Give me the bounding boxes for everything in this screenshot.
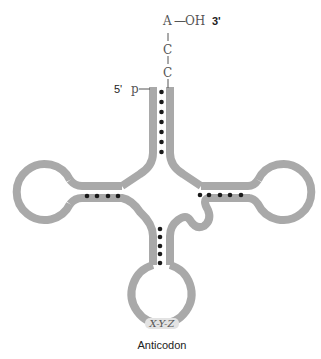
anticodon-label: Anticodon <box>138 339 187 351</box>
anticodon-stem-base-pairs <box>158 227 163 266</box>
acceptor-stem-5prime-strand <box>122 87 153 186</box>
base-a-label: A <box>162 14 172 28</box>
rna-backbone <box>17 87 312 324</box>
three-prime-label: 3' <box>212 15 221 27</box>
five-prime-label: 5' <box>114 83 122 95</box>
acceptor-stem-base-pairs <box>159 90 164 155</box>
trna-diagram: A — OH 3' C C 5' p X-Y-Z Anticodon <box>0 0 321 359</box>
oh-group-label: OH <box>185 14 205 28</box>
phosphate-label: p <box>131 82 139 96</box>
base-c1-label: C <box>163 43 172 57</box>
acceptor-stem-3prime-strand <box>170 87 201 186</box>
anticodon-stem-right-strand <box>170 198 250 265</box>
anticodon-loop <box>132 265 192 324</box>
d-arm-top-strand <box>70 180 122 186</box>
anticodon-bases: X-Y-Z <box>149 318 176 329</box>
base-c2-label: C <box>163 66 172 80</box>
five-prime-end: 5' p <box>114 82 150 96</box>
three-prime-tail: A — OH 3' C C <box>162 14 221 88</box>
d-arm-bottom-strand <box>70 198 153 265</box>
t-arm-top-strand <box>201 180 258 186</box>
t-loop <box>248 164 311 220</box>
d-loop <box>17 164 70 220</box>
